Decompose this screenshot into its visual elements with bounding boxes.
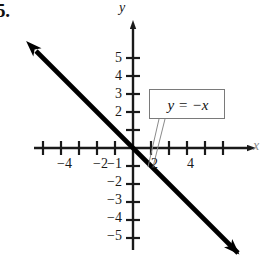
x-tick-label-4: 4 [182, 157, 194, 171]
function-line [36, 51, 238, 253]
graph-figure: 5. [0, 0, 263, 261]
y-axis-label: y [119, 0, 125, 16]
y-tick-label-2: 2 [108, 105, 122, 119]
y-tick-label-4: 4 [108, 69, 122, 83]
y-tick-label-neg3: −3 [104, 193, 122, 207]
y-tick-label-5: 5 [108, 51, 122, 65]
y-tick-label-3: 3 [108, 87, 122, 101]
equation-callout-box: y = −x [149, 89, 225, 119]
y-tick-label-neg5: −5 [104, 229, 122, 243]
x-tick-label-neg4: −4 [54, 157, 72, 171]
y-tick-label-neg2: −2 [104, 175, 122, 189]
x-tick-label-2: 2 [146, 157, 158, 171]
y-tick-label-neg4: −4 [104, 211, 122, 225]
x-axis-label: x [253, 138, 259, 154]
y-tick-label-neg1: −1 [104, 157, 122, 171]
equation-label: y = −x [150, 90, 226, 120]
coordinate-plane [0, 0, 263, 261]
